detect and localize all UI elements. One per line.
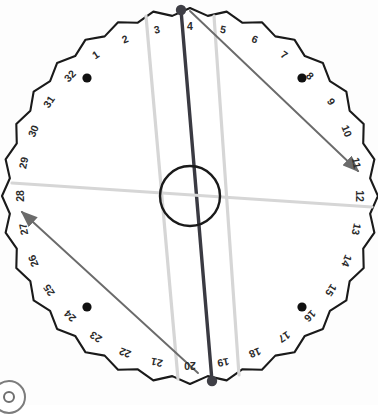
tick-label-19: 19 (216, 356, 230, 370)
quadrant-dot-top-left (82, 73, 91, 82)
endpoint-dot-top (176, 5, 186, 15)
tick-label-29: 29 (16, 156, 30, 170)
tick-label-20: 20 (184, 360, 196, 372)
quadrant-dot-bottom-right (297, 302, 306, 311)
quadrant-dot-bottom-left (82, 302, 91, 311)
tick-label-12: 12 (354, 190, 366, 202)
tick-label-28: 28 (14, 190, 26, 202)
endpoint-dot-bottom (207, 376, 217, 386)
tick-label-4: 4 (187, 20, 193, 32)
tick-label-13: 13 (350, 222, 364, 236)
tick-label-27: 27 (16, 222, 30, 236)
tick-label-21: 21 (150, 356, 164, 370)
